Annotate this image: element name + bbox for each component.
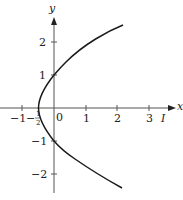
y-tick-label: −1 bbox=[31, 135, 47, 148]
x-axis-arrow-icon bbox=[168, 105, 176, 111]
y-axis-arrow-icon bbox=[51, 17, 57, 25]
y-tick-label: 2 bbox=[39, 36, 46, 49]
curve-label: I bbox=[160, 112, 166, 125]
x-tick-label-numerator: 1 bbox=[36, 110, 40, 118]
y-axis-label: y bbox=[48, 2, 56, 15]
x-tick-label-sign: − bbox=[26, 112, 35, 125]
x-tick-label: 1 bbox=[83, 112, 90, 125]
parabola-curve bbox=[39, 25, 124, 188]
y-tick-label: −2 bbox=[31, 168, 47, 181]
x-tick-label: 3 bbox=[146, 112, 153, 125]
x-tick-label-denominator: 2 bbox=[36, 119, 40, 127]
x-axis-label: x bbox=[177, 100, 183, 113]
x-tick-label: 2 bbox=[114, 112, 121, 125]
parabola-diagram: y x I −1 − 1 2 0 1 2 3 2 1 −1 −2 bbox=[0, 0, 183, 200]
x-tick-label: 0 bbox=[56, 111, 63, 124]
y-tick-label: 1 bbox=[39, 69, 46, 82]
x-tick-label: −1 bbox=[10, 112, 26, 125]
